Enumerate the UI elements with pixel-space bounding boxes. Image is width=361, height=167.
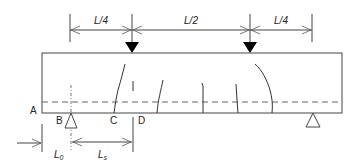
span-label-right: L/4 [274, 15, 288, 26]
load-arrow-icon [125, 42, 139, 53]
crack [114, 64, 125, 113]
load-point-right [243, 42, 257, 53]
support-left-icon [65, 113, 77, 128]
label-l0: L0 [54, 149, 64, 161]
cracks [114, 64, 272, 113]
span-label-left: L/4 [94, 15, 108, 26]
label-a: A [30, 105, 37, 116]
beam-diagram: L/4 L/2 L/4 A B C D L0 [0, 0, 361, 167]
load-arrow-icon [243, 42, 257, 53]
crack [202, 83, 203, 113]
support-right-icon [306, 113, 320, 127]
label-d: D [138, 115, 145, 126]
span-label-middle: L/2 [184, 15, 198, 26]
label-ls: Ls [98, 149, 108, 161]
crack [157, 80, 163, 113]
crack [236, 84, 238, 113]
crack [255, 64, 272, 113]
label-c: C [110, 115, 117, 126]
load-point-left [125, 42, 139, 53]
beam [42, 53, 342, 113]
top-dimension: L/4 L/2 L/4 [70, 14, 312, 42]
label-b: B [56, 115, 63, 126]
